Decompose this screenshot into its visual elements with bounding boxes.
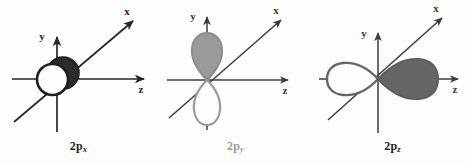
- axis-label-x: x: [273, 4, 279, 16]
- orbital-caption-subscript: z: [397, 144, 401, 154]
- axis-label-z: z: [453, 83, 458, 95]
- orbital-lobe-right-gray: [378, 59, 438, 99]
- orbital-figure: y z x 2px y z x 2py: [0, 0, 471, 164]
- orbital-caption-2px: 2px: [0, 139, 157, 154]
- axis-label-z: z: [139, 83, 144, 95]
- orbital-caption-base: 2p: [70, 139, 83, 153]
- orbital-caption-2pz: 2pz: [314, 139, 471, 154]
- orbital-panel-2px: y z x 2px: [0, 0, 157, 164]
- axis-label-z: z: [283, 84, 288, 96]
- axis-label-y: y: [39, 30, 45, 42]
- orbital-caption-2py: 2py: [157, 139, 314, 154]
- orbital-caption-base: 2p: [384, 139, 397, 153]
- orbital-caption-subscript: y: [240, 144, 244, 154]
- orbital-panel-2py: y z x 2py: [157, 0, 314, 164]
- orbital-panel-2pz: y z x 2pz: [314, 0, 471, 164]
- axis-label-x: x: [433, 2, 439, 14]
- axis-label-x: x: [124, 5, 130, 17]
- orbital-lobe-left-white: [327, 63, 378, 95]
- orbital-lobe-lower-white: [194, 80, 220, 125]
- axis-label-y: y: [190, 10, 196, 22]
- orbital-lobe-upper-gray: [192, 33, 222, 80]
- orbital-caption-base: 2p: [227, 139, 240, 153]
- axis-x-line: [169, 20, 281, 118]
- orbital-caption-subscript: x: [83, 144, 87, 154]
- orbital-lobe-front-white: [37, 64, 68, 95]
- axis-label-y: y: [361, 27, 367, 39]
